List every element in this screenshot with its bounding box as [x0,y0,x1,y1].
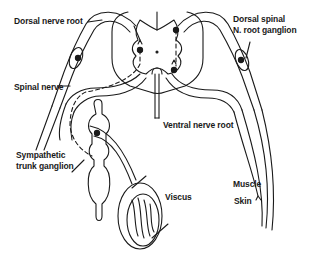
left-ventral-root [66,74,140,104]
label-sympathetic-line2: trunk ganglion [16,161,74,171]
label-dorsal-spinal-ganglion-line1: Dorsal spinal [233,14,285,24]
label-spinal-nerve: Spinal nerve [14,82,63,92]
right-dorsal-ganglion-cell [238,57,243,62]
label-dorsal-spinal-ganglion-line2: N. root ganglion [233,25,297,35]
left-dorsal-ganglion-cell [75,55,80,60]
label-sympathetic-line1: Sympathetic [16,150,65,160]
label-dorsal-nerve-root: Dorsal nerve root [14,16,83,26]
sympathetic-ganglion-cell [94,130,99,135]
left-spinal-nerve [36,106,52,150]
diagram-artwork [0,0,311,262]
label-viscus: Viscus [165,192,192,202]
label-skin: Skin [234,196,252,206]
viscus-organ [118,183,162,249]
right-ventral-root [172,74,242,110]
sympathetic-chain [88,100,110,221]
spinal-reflex-diagram: Dorsal nerve root Dorsal spinal N. root … [0,0,311,262]
label-muscle: Muscle [233,179,261,189]
label-ventral-nerve-root: Ventral nerve root [163,120,233,130]
